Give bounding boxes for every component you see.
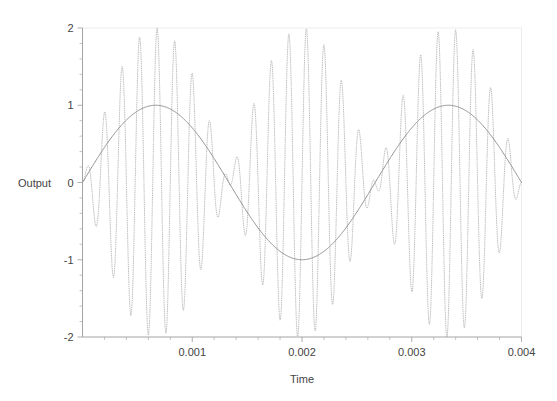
series-carrier — [83, 28, 522, 337]
y-tick-label: -2 — [64, 331, 74, 343]
x-tick-label: 0.003 — [398, 346, 426, 358]
x-axis-title: Time — [290, 373, 314, 385]
plot-canvas: -2-10120.0010.0020.0030.004OutputTime — [0, 0, 557, 401]
y-tick-label: 0 — [67, 177, 73, 189]
x-tick-label: 0.002 — [288, 346, 316, 358]
chart-container: -2-10120.0010.0020.0030.004OutputTime — [0, 0, 557, 401]
y-tick-label: 2 — [67, 22, 73, 34]
plot-frame — [83, 28, 522, 337]
y-tick-label: 1 — [67, 99, 73, 111]
series-envelope — [83, 105, 522, 260]
plot-frame-outline — [83, 28, 522, 337]
y-axis-title: Output — [18, 177, 51, 189]
x-tick-label: 0.001 — [178, 346, 206, 358]
data-series-group — [83, 28, 522, 337]
y-tick-label: -1 — [64, 254, 74, 266]
x-tick-label: 0.004 — [508, 346, 536, 358]
